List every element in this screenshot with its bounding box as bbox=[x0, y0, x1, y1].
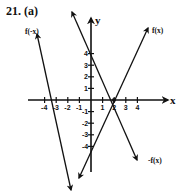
x-tick-label: -2 bbox=[64, 104, 70, 111]
y-tick-label: 1 bbox=[84, 85, 88, 92]
x-tick-label: -4 bbox=[41, 104, 47, 111]
x-axis-label: x bbox=[170, 94, 176, 106]
x-tick-label: 1 bbox=[101, 104, 105, 111]
y-axis-label: y bbox=[95, 14, 101, 26]
y-tick-label: -3 bbox=[82, 131, 88, 138]
y-tick-label: -2 bbox=[82, 120, 88, 127]
label-f-neg-x: f(-x) bbox=[25, 27, 39, 36]
y-tick-label: 2 bbox=[84, 73, 88, 80]
x-tick-label: 3 bbox=[124, 104, 128, 111]
line-f-neg-x bbox=[37, 34, 71, 190]
y-tick-label: 4 bbox=[84, 50, 88, 57]
label-f-x: f(x) bbox=[152, 26, 164, 35]
y-tick-label: 3 bbox=[84, 62, 88, 69]
y-tick-label: -4 bbox=[82, 143, 88, 150]
y-tick-label: -1 bbox=[82, 108, 88, 115]
x-tick-label: 4 bbox=[135, 104, 139, 111]
graph: -4-3-2-112344321-1-2-3-4 x y f(x) -f(x) … bbox=[0, 0, 185, 193]
label-neg-f-x: -f(x) bbox=[148, 156, 162, 165]
intersection-point bbox=[112, 98, 116, 102]
